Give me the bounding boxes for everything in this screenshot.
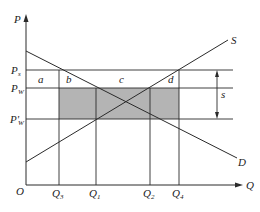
area-b-label: b <box>66 73 72 85</box>
q4-label: Q 4 <box>172 187 184 201</box>
x-axis-arrow-icon <box>235 183 243 188</box>
subsidy-label: s <box>221 88 225 100</box>
pw-label: P W <box>10 82 25 96</box>
svg-text:W: W <box>18 119 25 127</box>
area-d-label: d <box>168 73 174 85</box>
demand-label: D <box>237 156 246 168</box>
svg-text:s: s <box>18 70 21 78</box>
supply-curve <box>26 40 228 162</box>
y-axis-arrow-icon <box>24 14 29 22</box>
svg-text:W: W <box>18 88 25 96</box>
svg-text:Q: Q <box>143 187 151 199</box>
demand-curve <box>26 51 237 158</box>
svg-text:Q: Q <box>172 187 180 199</box>
subsidy-diagram: P Q O S D P s P W P' W Q 3 Q 1 Q 2 <box>0 0 260 212</box>
y-axis-label: P <box>13 13 21 25</box>
subsidy-arrow-down-icon <box>215 112 219 119</box>
q2-label: Q 2 <box>143 187 155 201</box>
svg-text:P: P <box>10 64 18 76</box>
shaded-area <box>59 88 179 119</box>
svg-text:4: 4 <box>180 193 184 201</box>
q1-label: Q 1 <box>89 187 101 201</box>
svg-text:Q: Q <box>52 187 60 199</box>
svg-text:Q: Q <box>89 187 97 199</box>
area-c-label: c <box>119 73 124 85</box>
svg-text:P: P <box>10 82 18 94</box>
area-a-label: a <box>38 73 44 85</box>
x-axis-label: Q <box>246 179 254 191</box>
origin-label: O <box>16 185 24 197</box>
ps-label: P s <box>10 64 21 78</box>
subsidy-arrow-up-icon <box>215 70 219 77</box>
svg-text:3: 3 <box>59 193 64 201</box>
svg-text:1: 1 <box>97 193 101 201</box>
q3-label: Q 3 <box>52 187 64 201</box>
svg-text:2: 2 <box>151 193 155 201</box>
pw-prime-label: P' W <box>9 113 25 127</box>
supply-label: S <box>231 34 237 46</box>
